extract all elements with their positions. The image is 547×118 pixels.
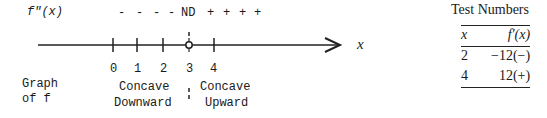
tick-label-1: 1 (134, 62, 141, 76)
sign-minus: - (136, 6, 143, 20)
test-numbers-title: Test Numbers (451, 2, 529, 18)
sign-not-defined: ND (181, 6, 195, 20)
x-axis-label: x (357, 36, 364, 53)
header-fprime: f′(x) (491, 26, 530, 47)
sign-plus: + (254, 6, 261, 20)
header-x: x (461, 26, 491, 47)
sign-minus: - (168, 6, 175, 20)
cell-x: 2 (461, 47, 491, 68)
concave-up-label-2: Upward (205, 96, 248, 110)
tick-label-2: 2 (160, 62, 167, 76)
concave-down-label: Concave (119, 80, 169, 94)
test-numbers-table: x f′(x) 2 −12(−) 4 12(+) (461, 25, 530, 88)
table-header-row: x f′(x) (461, 26, 530, 47)
sign-minus: - (118, 6, 125, 20)
sign-plus: + (239, 6, 246, 20)
tick-label-3: 3 (186, 62, 193, 76)
concave-down-label-2: Downward (114, 96, 172, 110)
cell-x: 4 (461, 67, 491, 88)
graph-label: Graph (22, 77, 58, 91)
cell-value: 12(+) (491, 67, 530, 88)
sign-minus: - (153, 6, 160, 20)
tick-label-0: 0 (110, 62, 117, 76)
second-derivative-label: f″(x) (27, 5, 63, 19)
graph-label-of-f: of f (22, 92, 51, 106)
table-row: 2 −12(−) (461, 47, 530, 68)
table-row: 4 12(+) (461, 67, 530, 88)
tick-label-4: 4 (210, 62, 217, 76)
cell-value: −12(−) (491, 47, 530, 68)
concave-up-label: Concave (200, 80, 250, 94)
sign-plus: + (223, 6, 230, 20)
sign-plus: + (207, 6, 214, 20)
